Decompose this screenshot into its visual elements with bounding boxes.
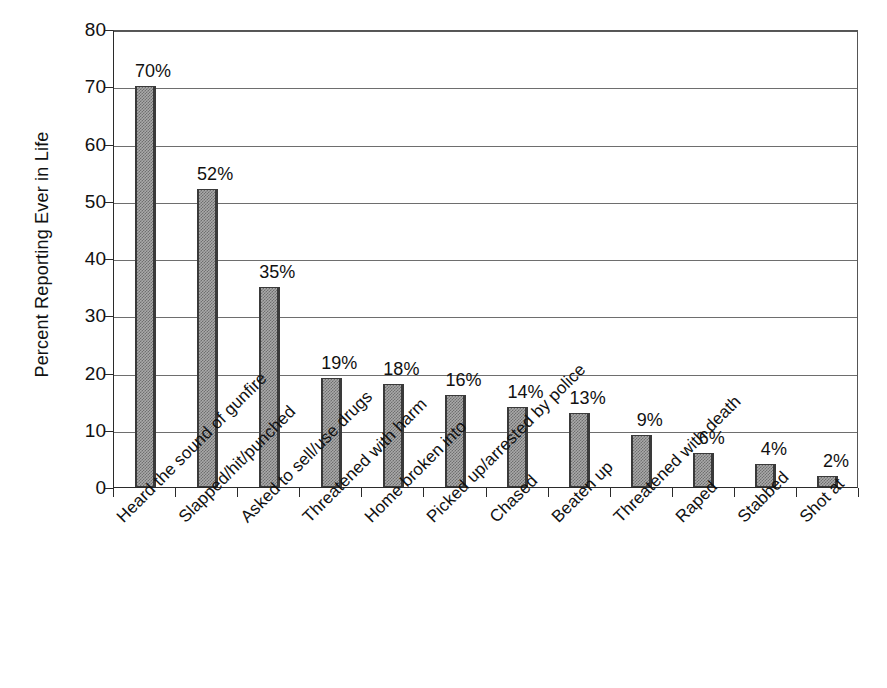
x-axis-tick-mark xyxy=(113,488,114,497)
bar-value-label: 16% xyxy=(445,370,481,391)
y-axis-tick-label: 40 xyxy=(60,248,106,270)
y-axis-tick-label: 30 xyxy=(60,305,106,327)
x-axis-tick-mark xyxy=(486,488,487,497)
y-axis-tick-label: 70 xyxy=(60,76,106,98)
x-axis-tick-mark xyxy=(734,488,735,497)
x-axis-tick-mark xyxy=(299,488,300,497)
y-axis-tick-label: 10 xyxy=(60,420,106,442)
x-axis-tick-mark xyxy=(361,488,362,497)
x-axis-tick-mark xyxy=(237,488,238,497)
gridline xyxy=(114,375,857,376)
y-axis-tick-label: 0 xyxy=(60,477,106,499)
x-axis-tick-mark xyxy=(796,488,797,497)
y-axis-tick-label: 50 xyxy=(60,191,106,213)
gridline xyxy=(114,317,857,318)
bar-value-label: 18% xyxy=(383,359,419,380)
x-axis-tick-mark xyxy=(423,488,424,497)
x-axis-tick-mark xyxy=(858,488,859,497)
x-axis-tick-mark xyxy=(175,488,176,497)
bar-value-label: 52% xyxy=(197,164,233,185)
bar-value-label: 13% xyxy=(570,388,606,409)
bar-value-label: 19% xyxy=(321,353,357,374)
y-axis-tick-label: 80 xyxy=(60,19,106,41)
bar-value-label: 35% xyxy=(259,262,295,283)
bar-value-label: 2% xyxy=(823,451,849,472)
x-axis-tick-mark xyxy=(610,488,611,497)
bar xyxy=(135,86,156,487)
x-axis-tick-mark xyxy=(672,488,673,497)
bar-value-label: 70% xyxy=(135,61,171,82)
gridline xyxy=(114,88,857,89)
bar-value-label: 9% xyxy=(637,410,663,431)
gridline xyxy=(114,146,857,147)
y-axis-tick-label: 60 xyxy=(60,134,106,156)
y-axis-tick-label: 20 xyxy=(60,363,106,385)
bar-value-label: 4% xyxy=(761,439,787,460)
gridline xyxy=(114,31,857,32)
gridline xyxy=(114,432,857,433)
bar-chart: Percent Reporting Ever in Life 010203040… xyxy=(0,0,887,688)
y-axis-title: Percent Reporting Ever in Life xyxy=(32,45,53,465)
gridline xyxy=(114,260,857,261)
gridline xyxy=(114,203,857,204)
x-axis-tick-mark xyxy=(548,488,549,497)
